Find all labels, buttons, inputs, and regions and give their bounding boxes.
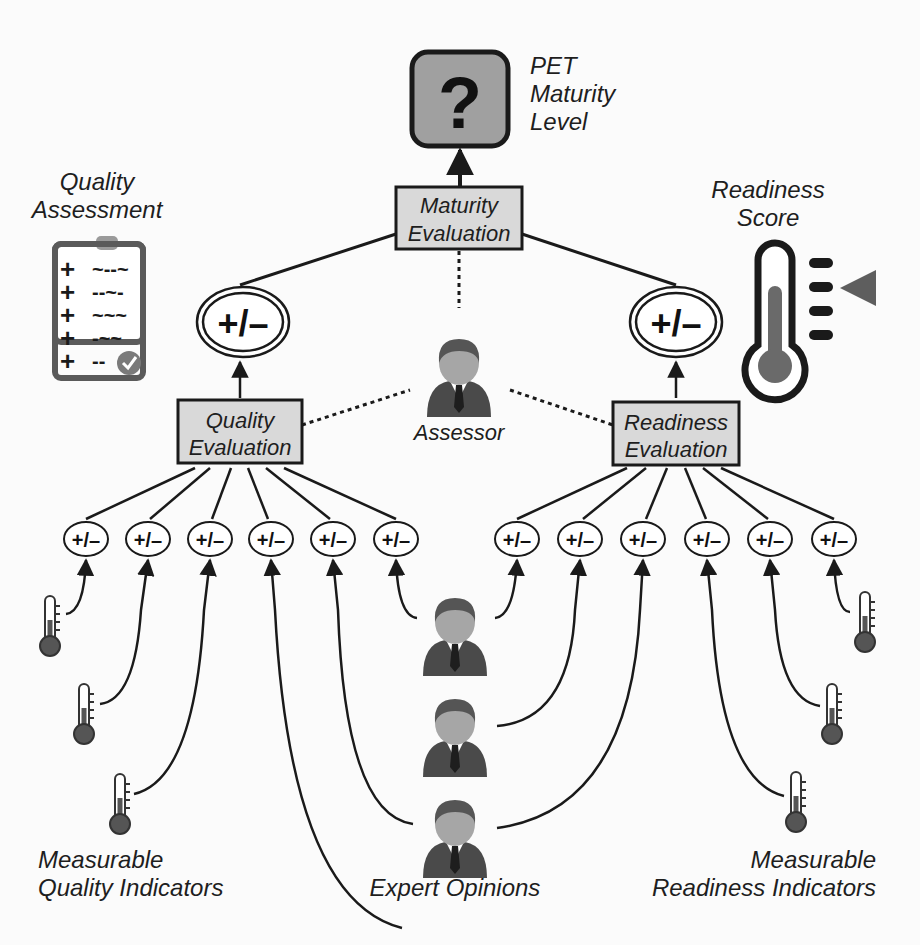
svg-text:Readiness: Readiness bbox=[624, 410, 728, 435]
svg-text:Assessment: Assessment bbox=[30, 196, 164, 223]
readiness-score-label: Readiness Score bbox=[711, 176, 824, 231]
svg-text:PET: PET bbox=[530, 52, 579, 79]
assessor-link-readiness bbox=[510, 390, 613, 425]
svg-text:--~-: --~- bbox=[92, 281, 124, 303]
svg-text:+/–: +/– bbox=[693, 529, 721, 551]
svg-text:+/–: +/– bbox=[196, 529, 224, 551]
svg-text:Quality Indicators: Quality Indicators bbox=[38, 874, 223, 901]
svg-text:Evaluation: Evaluation bbox=[625, 437, 728, 462]
quality-indicator-thermometer-3 bbox=[110, 774, 130, 834]
readiness-indicator-thermometer-1 bbox=[855, 592, 875, 652]
svg-text:+/–: +/– bbox=[134, 529, 162, 551]
svg-text:Readiness Indicators: Readiness Indicators bbox=[652, 874, 876, 901]
readiness-fan-lines bbox=[517, 468, 834, 519]
svg-text:Evaluation: Evaluation bbox=[189, 435, 292, 460]
svg-text:+/–: +/– bbox=[820, 529, 848, 551]
svg-text:Level: Level bbox=[530, 108, 588, 135]
svg-text:+/–: +/– bbox=[566, 529, 594, 551]
svg-text:+/–: +/– bbox=[217, 303, 268, 344]
svg-text:+/–: +/– bbox=[629, 529, 657, 551]
svg-text:Evaluation: Evaluation bbox=[408, 221, 511, 246]
readiness-evaluation-box: Readiness Evaluation bbox=[613, 402, 739, 465]
svg-text:-~~: -~~ bbox=[92, 327, 122, 349]
assessor-label: Assessor bbox=[412, 420, 506, 445]
svg-text:+/–: +/– bbox=[382, 529, 410, 551]
expert-icon-2 bbox=[423, 699, 487, 777]
svg-text:Measurable: Measurable bbox=[751, 846, 876, 873]
svg-text:Readiness: Readiness bbox=[711, 176, 824, 203]
assessor-link-quality bbox=[302, 390, 410, 425]
svg-text:--: -- bbox=[92, 350, 105, 372]
pet-maturity-level-node: ? bbox=[412, 52, 508, 146]
readiness-thermometer-icon bbox=[745, 243, 876, 400]
quality-aggregation-node: +/– bbox=[197, 287, 289, 357]
svg-text:+/–: +/– bbox=[756, 529, 784, 551]
svg-text:+/–: +/– bbox=[257, 529, 285, 551]
quality-indicator-thermometer-1 bbox=[40, 596, 60, 656]
measurable-readiness-label: Measurable Readiness Indicators bbox=[652, 846, 876, 901]
question-mark-icon: ? bbox=[438, 63, 482, 143]
pet-maturity-label: PET Maturity Level bbox=[530, 52, 617, 135]
clipboard-icon: +~--~ +--~- +~~~ +-~~ +-- bbox=[55, 236, 143, 378]
measurable-quality-label: Measurable Quality Indicators bbox=[38, 846, 223, 901]
svg-text:Maturity: Maturity bbox=[530, 80, 617, 107]
expert-icon-3 bbox=[423, 800, 487, 878]
link-maturity-quality bbox=[240, 234, 396, 285]
svg-text:Maturity: Maturity bbox=[420, 193, 500, 218]
svg-text:+: + bbox=[60, 346, 75, 376]
svg-text:Score: Score bbox=[737, 204, 800, 231]
pointer-icon bbox=[840, 270, 876, 306]
svg-text:+/–: +/– bbox=[319, 529, 347, 551]
svg-text:Quality: Quality bbox=[206, 408, 276, 433]
svg-text:~--~: ~--~ bbox=[92, 258, 129, 280]
readiness-indicator-thermometer-3 bbox=[786, 772, 806, 832]
quality-evaluation-box: Quality Evaluation bbox=[178, 400, 302, 463]
quality-indicator-nodes: +/– +/– +/– +/– +/– +/– bbox=[64, 522, 418, 556]
expert-icon-1 bbox=[423, 598, 487, 676]
svg-text:+/–: +/– bbox=[72, 529, 100, 551]
quality-assessment-label: Quality Assessment bbox=[30, 168, 164, 223]
assessor-icon bbox=[427, 339, 491, 417]
quality-fan-lines bbox=[86, 468, 396, 519]
link-maturity-readiness bbox=[522, 234, 676, 285]
svg-text:+/–: +/– bbox=[650, 303, 701, 344]
readiness-indicator-nodes: +/– +/– +/– +/– +/– +/– bbox=[495, 522, 856, 556]
quality-indicator-thermometer-2 bbox=[74, 684, 94, 744]
svg-text:~~~: ~~~ bbox=[92, 304, 127, 326]
svg-text:Measurable: Measurable bbox=[38, 846, 163, 873]
readiness-indicator-thermometer-2 bbox=[822, 684, 842, 744]
svg-text:Quality: Quality bbox=[60, 168, 137, 195]
maturity-evaluation-box: Maturity Evaluation bbox=[396, 187, 522, 249]
svg-text:+/–: +/– bbox=[503, 529, 531, 551]
readiness-aggregation-node: +/– bbox=[630, 287, 722, 357]
pet-maturity-diagram: ? PET Maturity Level Maturity Evaluation… bbox=[0, 0, 920, 945]
check-icon bbox=[117, 351, 141, 375]
expert-opinions-label: Expert Opinions bbox=[370, 874, 541, 901]
